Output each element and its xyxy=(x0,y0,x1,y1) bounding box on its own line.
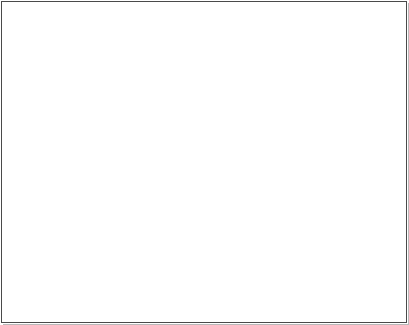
label-swine-dysentery: Swine dysentery xyxy=(227,213,296,223)
label-peritonitis: Peritonitis xyxy=(227,152,268,162)
label-pleurisy: Pleurisy xyxy=(227,100,260,110)
photo-grain-overlay xyxy=(2,2,230,322)
label-ileitis-proximal-ileum: Ileitis - proximal ileum xyxy=(227,177,318,187)
label-foot-conditions: Foot conditions xyxy=(227,33,291,43)
label-enzootic-pneumonia: Enzootic (mycoplasma) pneumonia xyxy=(227,73,374,83)
figure-panel: (b) Aujeszky's - tonsilsFoot conditionsJ… xyxy=(0,0,409,325)
label-reproductive-problems: Reproductive problems xyxy=(227,247,324,257)
label-gastric-ulcer: Gastric ulcer xyxy=(227,127,280,137)
label-anaemia: Anaemia xyxy=(227,286,264,296)
carcass-photograph xyxy=(2,2,230,322)
label-pyelonephritis-kidneys: Pyelonephritis (kidneys) xyxy=(227,191,327,201)
label-joint-problems: Joint problems xyxy=(227,45,288,55)
label-ascaris-suum: Ascaris suum xyxy=(227,140,283,150)
label-ocd: OCD xyxy=(227,298,248,308)
label-aujeszkys-tonsils: Aujeszky's - tonsils xyxy=(227,10,306,20)
label-pcv2-sd: PCV2-SD xyxy=(227,273,268,283)
label-actinobacillus-pneumonia: Actinobacillus pneumonia xyxy=(227,87,334,97)
label-glassers-disease: Glasser's disease xyxy=(227,58,301,68)
label-colitis: Colitis xyxy=(227,226,253,236)
label-cystitis: Cystitis xyxy=(227,260,257,270)
panel-tag: (b) xyxy=(8,296,21,308)
